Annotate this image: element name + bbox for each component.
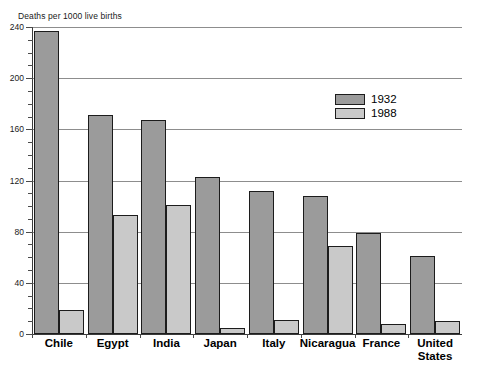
bar-egypt-1932 <box>88 115 113 334</box>
bar-nicaragua-1988 <box>328 246 353 334</box>
y-tick-label-40: 40 <box>0 279 24 288</box>
y-tick-label-0: 0 <box>0 330 24 339</box>
legend-item-1988: 1988 <box>335 107 397 120</box>
x-tick-5 <box>301 334 302 338</box>
bar-france-1932 <box>356 233 381 334</box>
bar-chart: Deaths per 1000 live births 240200160120… <box>0 0 481 372</box>
y-tick-label-80: 80 <box>0 228 24 237</box>
chart-legend: 1932 1988 <box>335 93 397 121</box>
legend-label-1932: 1932 <box>371 94 397 105</box>
x-tick-6 <box>355 334 356 338</box>
legend-swatch-1932 <box>335 94 365 105</box>
x-tick-3 <box>193 334 194 338</box>
bar-italy-1988 <box>274 320 299 334</box>
legend-label-1988: 1988 <box>371 108 397 119</box>
x-label-united-states: United States <box>401 337 469 363</box>
bar-nicaragua-1932 <box>303 196 328 334</box>
y-tick-label-120: 120 <box>0 177 24 186</box>
bars-container <box>32 27 462 334</box>
bar-japan-1932 <box>195 177 220 334</box>
bar-united-states-1932 <box>410 256 435 334</box>
bar-japan-1988 <box>220 328 245 334</box>
bar-india-1932 <box>141 120 166 334</box>
y-axis-tick-labels: 24020016012080400 <box>0 0 24 372</box>
x-tick-4 <box>247 334 248 338</box>
bar-france-1988 <box>381 324 406 334</box>
x-tick-7 <box>408 334 409 338</box>
y-tick-label-200: 200 <box>0 74 24 83</box>
x-tick-1 <box>86 334 87 338</box>
y-tick-label-160: 160 <box>0 125 24 134</box>
bar-egypt-1988 <box>113 215 138 334</box>
chart-axis-title: Deaths per 1000 live births <box>18 11 122 21</box>
x-axis-category-labels: ChileEgyptIndiaJapanItalyNicaraguaFrance… <box>32 337 462 372</box>
bar-united-states-1988 <box>435 321 460 334</box>
bar-italy-1932 <box>249 191 274 334</box>
y-tick-label-240: 240 <box>0 23 24 32</box>
bar-india-1988 <box>166 205 191 334</box>
legend-swatch-1988 <box>335 108 365 119</box>
legend-item-1932: 1932 <box>335 93 397 106</box>
bar-chile-1932 <box>34 31 59 334</box>
bar-chile-1988 <box>59 310 84 334</box>
x-tick-0 <box>32 334 33 338</box>
x-tick-2 <box>140 334 141 338</box>
